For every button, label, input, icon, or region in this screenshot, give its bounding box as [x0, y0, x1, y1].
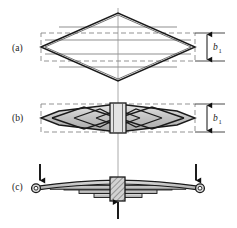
panel-c-label: (c)	[12, 182, 23, 193]
panel-b-dimension-subscript: 1	[219, 118, 222, 125]
panel-b: (b) b 1	[12, 103, 225, 133]
panel-b-dimension-symbol: b	[213, 113, 218, 123]
panel-a-label: (a)	[12, 43, 23, 54]
panel-a: (a) b 1	[12, 13, 225, 81]
panel-c-left-eye	[32, 184, 41, 193]
leaf-spring-figure: (a) b 1	[0, 0, 237, 228]
figure-canvas: (a) b 1	[0, 0, 237, 228]
panel-a-dimension-b1: b 1	[195, 33, 225, 61]
panel-c: (c)	[12, 164, 204, 219]
panel-c-center-clamp	[110, 177, 125, 201]
panel-a-dimension-subscript: 1	[219, 47, 222, 54]
panel-b-dimension-b1: b 1	[195, 104, 225, 132]
panel-c-right-eye	[196, 184, 205, 193]
panel-b-label: (b)	[12, 113, 23, 124]
panel-a-dimension-symbol: b	[213, 42, 218, 52]
panel-b-center-clamp	[110, 103, 126, 133]
